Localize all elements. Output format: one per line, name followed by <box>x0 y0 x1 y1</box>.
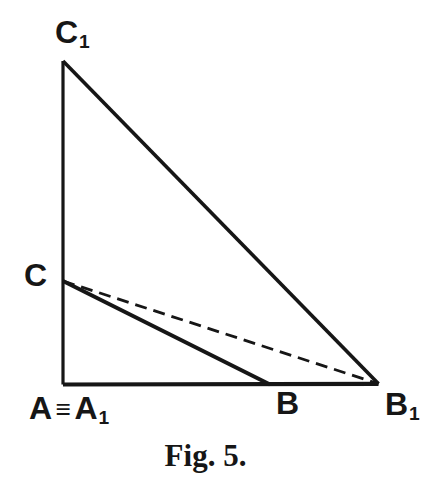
vertex-label-a1-subscript: 1 <box>99 407 110 428</box>
vertex-label-c1: C1 <box>55 16 90 51</box>
side-C-B <box>63 281 270 385</box>
vertex-label-c: C <box>24 259 48 291</box>
side-C-B1 <box>63 281 379 384</box>
vertex-label-a-identical-a1: A≡A1 <box>29 392 110 427</box>
vertex-label-b-base: B <box>276 385 300 421</box>
vertex-label-c1-base: C <box>55 14 79 50</box>
side-A-B1 <box>63 384 379 385</box>
vertex-label-b1-base: B <box>385 386 409 422</box>
vertex-label-c1-subscript: 1 <box>79 31 90 52</box>
identical-to-symbol: ≡ <box>56 394 72 424</box>
vertex-label-b1-subscript: 1 <box>409 403 420 424</box>
side-C1-B1 <box>63 61 379 384</box>
vertex-label-b: B <box>276 387 300 419</box>
figure-page: C1 C A≡A1 B B1 Fig. 5. <box>0 0 423 494</box>
vertex-label-c-base: C <box>24 257 48 293</box>
vertex-label-a1-base: A <box>74 390 98 426</box>
vertex-label-a-base: A <box>29 390 53 426</box>
vertex-label-b1: B1 <box>385 388 420 423</box>
figure-caption: Fig. 5. <box>0 437 417 474</box>
